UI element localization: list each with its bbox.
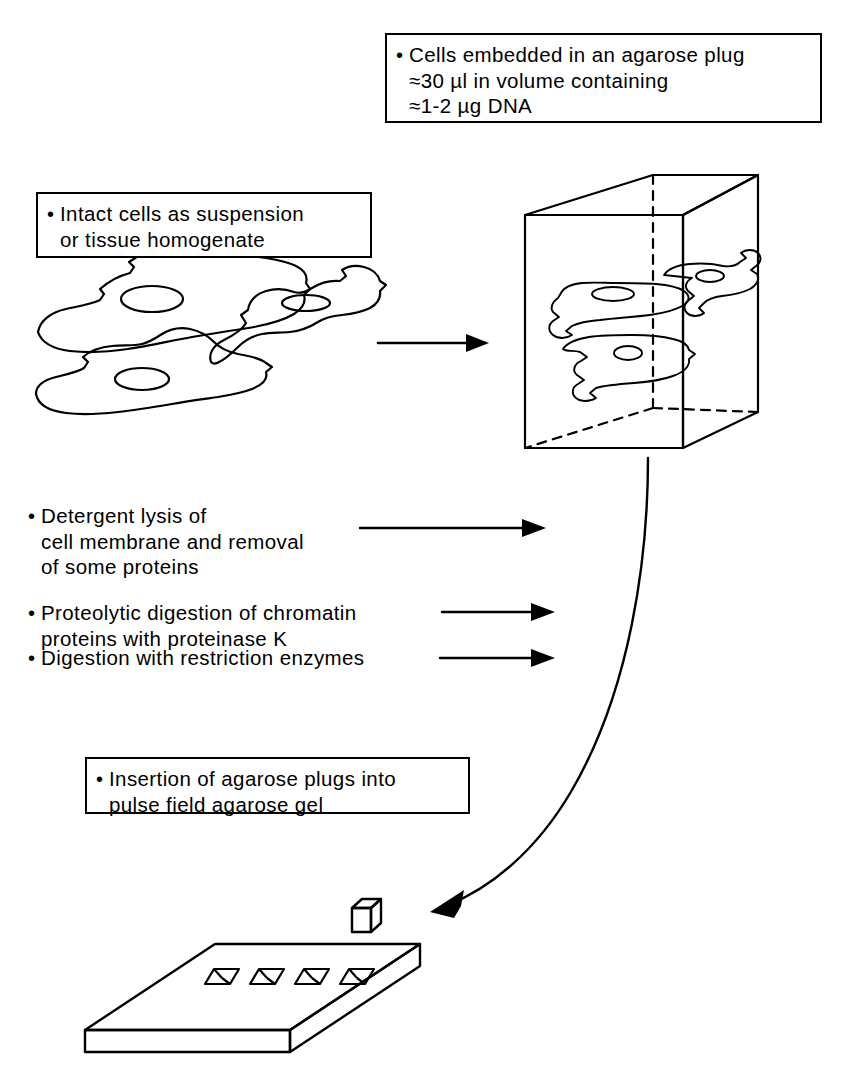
- step-line: cell membrane and removal: [28, 529, 304, 554]
- callout-line: pulse field agarose gel: [96, 792, 458, 817]
- step-line: of some proteins: [28, 554, 304, 579]
- step-restriction-digestion: Digestion with restriction enzymes: [28, 645, 365, 671]
- cell-outline: [38, 249, 310, 352]
- embedded-cell-outline: [549, 283, 688, 338]
- block-right-face: [683, 175, 758, 448]
- block-to-gel-arrowhead: [430, 890, 464, 918]
- callout-line: or tissue homogenate: [47, 227, 360, 252]
- cell-nucleus: [282, 295, 330, 311]
- step-proteolytic-digestion: Proteolytic digestion of chromatin prote…: [28, 600, 357, 651]
- restriction-digestion-arrowhead: [531, 649, 555, 667]
- embedded-cell-outline: [664, 250, 760, 316]
- gel-well: [340, 969, 374, 984]
- agarose-block-drawing: [525, 175, 760, 448]
- step-line: Digestion with restriction enzymes: [28, 645, 365, 671]
- embedded-cell-nucleus: [696, 270, 724, 282]
- cell-outline: [36, 328, 272, 414]
- step-line: Detergent lysis of: [28, 503, 304, 529]
- agarose-plug-drawing: [352, 899, 381, 932]
- embedded-cell-nucleus: [592, 287, 634, 301]
- callout-line: ≈30 µl in volume containing: [396, 68, 810, 93]
- block-to-gel-arrow: [448, 458, 648, 905]
- cell-nucleus: [115, 368, 169, 390]
- gel-top-surface: [85, 944, 420, 1030]
- pulsed-field-gel-drawing: [85, 944, 420, 1052]
- block-top-face: [525, 175, 758, 215]
- step-line: Proteolytic digestion of chromatin: [28, 600, 357, 626]
- cells-to-block-arrowhead: [466, 334, 489, 352]
- cell-outline: [210, 266, 386, 364]
- detergent-lysis-arrowhead: [522, 519, 546, 537]
- plug-front-face: [352, 908, 371, 932]
- insertion-callout: Insertion of agarose plugs into pulse fi…: [85, 757, 470, 814]
- embedded-cells: [549, 250, 760, 401]
- cell-nucleus: [121, 286, 183, 312]
- embedded-cell-nucleus: [614, 346, 642, 360]
- gel-front-face: [85, 1030, 290, 1052]
- intact-cells-callout: Intact cells as suspension or tissue hom…: [36, 192, 372, 258]
- block-front-face: [525, 215, 683, 448]
- suspended-cells-drawing: [36, 249, 386, 414]
- gel-well: [250, 969, 284, 984]
- embedded-cell-outline: [563, 335, 695, 401]
- gel-well: [205, 969, 239, 984]
- callout-line: Intact cells as suspension: [47, 201, 360, 227]
- step-detergent-lysis: Detergent lysis of cell membrane and rem…: [28, 503, 304, 579]
- callout-line: Insertion of agarose plugs into: [96, 766, 458, 792]
- callout-line: ≈1-2 µg DNA: [396, 93, 810, 118]
- gel-right-face: [290, 944, 420, 1052]
- gel-wells: [205, 969, 374, 984]
- figure-canvas: Cells embedded in an agarose plug ≈30 µl…: [0, 0, 848, 1083]
- callout-line: Cells embedded in an agarose plug: [396, 42, 810, 68]
- proteolytic-digestion-arrowhead: [531, 603, 555, 621]
- plug-right-face: [371, 899, 381, 932]
- gel-well: [295, 969, 329, 984]
- agarose-plug-callout: Cells embedded in an agarose plug ≈30 µl…: [385, 33, 822, 123]
